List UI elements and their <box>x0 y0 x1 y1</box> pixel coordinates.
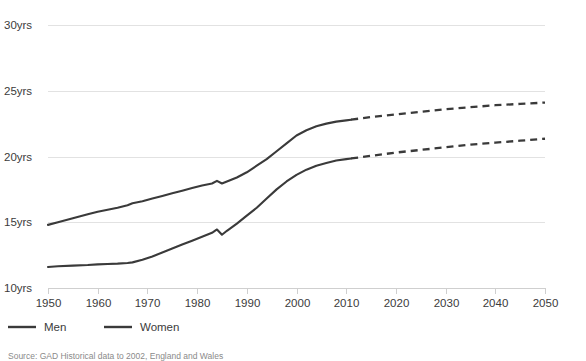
legend-label-men[interactable]: Men <box>44 321 66 333</box>
series-projection-men <box>351 139 545 159</box>
series-projection-women <box>351 103 545 120</box>
x-tick-label-2040: 2040 <box>483 297 509 309</box>
chart-canvas: 10yrs15yrs20yrs25yrs30yrs 19501960197019… <box>0 0 586 361</box>
x-tick-label-1950: 1950 <box>36 297 62 309</box>
y-tick-label-30: 30yrs <box>4 19 32 31</box>
x-tick-label-1980: 1980 <box>185 297 211 309</box>
x-tick-label-1970: 1970 <box>135 297 161 309</box>
y-tick-label-10: 10yrs <box>4 282 32 294</box>
x-axis-tick-labels: 1950196019701980199020002010202020302040… <box>36 297 559 309</box>
x-tick-label-2050: 2050 <box>533 297 559 309</box>
source-note: Source: GAD Historical data to 2002, Eng… <box>8 351 223 361</box>
chart-legend: MenWomen <box>8 321 179 333</box>
series-line-women <box>48 120 351 225</box>
y-axis-tick-labels: 10yrs15yrs20yrs25yrs30yrs <box>4 19 32 294</box>
x-tick-label-1960: 1960 <box>86 297 112 309</box>
x-tick-label-2020: 2020 <box>384 297 410 309</box>
data-series-group <box>48 103 545 267</box>
y-tick-label-15: 15yrs <box>4 216 32 228</box>
y-tick-label-25: 25yrs <box>4 85 32 97</box>
life-expectancy-chart: 10yrs15yrs20yrs25yrs30yrs 19501960197019… <box>0 0 586 361</box>
x-tick-label-1990: 1990 <box>235 297 261 309</box>
x-tick-label-2010: 2010 <box>334 297 360 309</box>
gridlines-group <box>48 26 545 289</box>
x-tick-label-2030: 2030 <box>434 297 460 309</box>
y-tick-label-20: 20yrs <box>4 151 32 163</box>
legend-label-women[interactable]: Women <box>140 321 179 333</box>
x-tick-label-2000: 2000 <box>285 297 311 309</box>
